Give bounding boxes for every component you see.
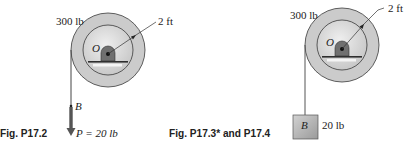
left-point-b-label: B	[75, 100, 82, 112]
left-point-b	[70, 105, 73, 108]
right-center-label: O	[326, 36, 334, 48]
left-radius-label: 2 ft	[158, 15, 173, 27]
left-support-highlight	[93, 64, 122, 67]
left-radius-leader	[136, 22, 156, 35]
left-center-label: O	[92, 42, 100, 54]
left-pulley	[67, 13, 157, 136]
left-figure-caption: Fig. P17.2	[0, 127, 47, 139]
right-support-highlight	[327, 59, 356, 62]
right-figure-caption: Fig. P17.3* and P17.4	[169, 127, 270, 139]
right-radius-label: 2 ft	[388, 2, 403, 14]
left-pulley-weight-label: 300 lb	[56, 15, 84, 27]
left-force-arrow-head	[67, 128, 76, 136]
block-b-label: B	[301, 119, 308, 131]
force-p-label: P = 20 lb	[76, 127, 118, 139]
left-force-arrow-shaft	[69, 107, 72, 130]
right-pulley-weight-label: 300 lb	[290, 9, 318, 21]
block-weight-label: 20 lb	[322, 119, 344, 131]
